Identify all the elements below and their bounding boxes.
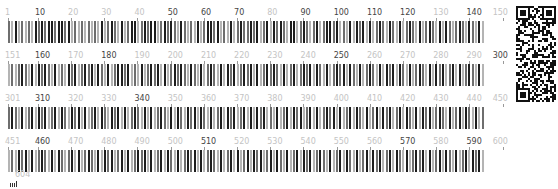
position-bar[interactable] [81, 107, 83, 129]
position-bar[interactable] [121, 21, 123, 43]
position-bar[interactable] [164, 64, 166, 86]
position-bar[interactable] [356, 150, 358, 172]
position-bar[interactable] [372, 64, 374, 86]
position-bar[interactable] [303, 21, 305, 43]
position-bar[interactable] [91, 107, 93, 129]
position-bar[interactable] [280, 64, 282, 86]
position-bar[interactable] [177, 64, 179, 86]
position-bar[interactable] [124, 107, 126, 129]
position-bar[interactable] [197, 107, 199, 129]
position-bar[interactable] [316, 150, 318, 172]
position-bar[interactable] [482, 21, 484, 43]
position-bar[interactable] [333, 21, 335, 43]
position-bar[interactable] [306, 107, 308, 129]
position-bar[interactable] [28, 64, 30, 86]
position-bar[interactable] [273, 107, 275, 129]
position-bar[interactable] [200, 21, 202, 43]
position-bar[interactable] [379, 107, 381, 129]
position-bar[interactable] [91, 150, 93, 172]
position-bar[interactable] [15, 21, 17, 43]
position-bar[interactable] [243, 107, 245, 129]
position-bar[interactable] [230, 150, 232, 172]
position-bar[interactable] [399, 150, 401, 172]
position-bar[interactable] [339, 21, 341, 43]
position-bar[interactable] [220, 107, 222, 129]
position-bar[interactable] [11, 21, 13, 43]
position-bar[interactable] [187, 64, 189, 86]
position-bar[interactable] [429, 64, 431, 86]
position-bar[interactable] [187, 21, 189, 43]
position-bar[interactable] [313, 64, 315, 86]
position-bar[interactable] [58, 64, 60, 86]
position-bar[interactable] [329, 64, 331, 86]
position-bar[interactable] [369, 21, 371, 43]
position-bar[interactable] [306, 150, 308, 172]
position-bar[interactable] [207, 21, 209, 43]
position-bar[interactable] [44, 150, 46, 172]
position-bar[interactable] [429, 21, 431, 43]
position-bar[interactable] [256, 21, 258, 43]
position-bar[interactable] [425, 107, 427, 129]
position-bar[interactable] [406, 150, 408, 172]
position-bar[interactable] [74, 64, 76, 86]
position-bar[interactable] [253, 107, 255, 129]
position-bar[interactable] [180, 150, 182, 172]
position-bar[interactable] [270, 21, 272, 43]
position-bar[interactable] [247, 21, 249, 43]
position-bar[interactable] [220, 64, 222, 86]
position-bar[interactable] [88, 21, 90, 43]
position-bar[interactable] [154, 21, 156, 43]
position-bar[interactable] [382, 21, 384, 43]
position-bar[interactable] [104, 150, 106, 172]
position-bar[interactable] [21, 64, 23, 86]
position-bar[interactable] [382, 64, 384, 86]
position-bar[interactable] [250, 150, 252, 172]
position-bar[interactable] [217, 150, 219, 172]
position-bar[interactable] [127, 21, 129, 43]
position-bar[interactable] [223, 107, 225, 129]
position-bar[interactable] [11, 107, 13, 129]
position-bar[interactable] [160, 150, 162, 172]
position-bar[interactable] [240, 107, 242, 129]
position-bar[interactable] [253, 150, 255, 172]
position-bar[interactable] [432, 21, 434, 43]
position-bar[interactable] [174, 150, 176, 172]
position-bar[interactable] [58, 21, 60, 43]
position-bar[interactable] [283, 107, 285, 129]
position-bar[interactable] [286, 21, 288, 43]
position-bar[interactable] [425, 21, 427, 43]
position-bar[interactable] [38, 107, 40, 129]
position-bar[interactable] [336, 107, 338, 129]
position-bar[interactable] [91, 21, 93, 43]
position-bar[interactable] [180, 64, 182, 86]
position-bar[interactable] [250, 107, 252, 129]
position-bar[interactable] [379, 21, 381, 43]
position-bar[interactable] [290, 21, 292, 43]
position-bar[interactable] [210, 107, 212, 129]
position-bar[interactable] [97, 21, 99, 43]
position-bar[interactable] [372, 150, 374, 172]
position-bar[interactable] [141, 107, 143, 129]
position-bar[interactable] [147, 107, 149, 129]
position-bar[interactable] [237, 21, 239, 43]
position-bar[interactable] [154, 150, 156, 172]
position-bar[interactable] [399, 21, 401, 43]
position-bar[interactable] [104, 64, 106, 86]
position-bar[interactable] [462, 150, 464, 172]
position-bar[interactable] [362, 21, 364, 43]
position-bar[interactable] [164, 107, 166, 129]
position-bar[interactable] [48, 21, 50, 43]
position-bar[interactable] [101, 150, 103, 172]
position-bar[interactable] [147, 150, 149, 172]
position-bar[interactable] [369, 64, 371, 86]
position-bar[interactable] [207, 64, 209, 86]
position-bar[interactable] [333, 107, 335, 129]
position-bar[interactable] [276, 150, 278, 172]
position-bar[interactable] [137, 107, 139, 129]
position-bar[interactable] [266, 64, 268, 86]
position-bar[interactable] [18, 150, 20, 172]
position-bar[interactable] [74, 107, 76, 129]
position-bar[interactable] [237, 64, 239, 86]
position-bar[interactable] [459, 21, 461, 43]
position-bar[interactable] [442, 21, 444, 43]
